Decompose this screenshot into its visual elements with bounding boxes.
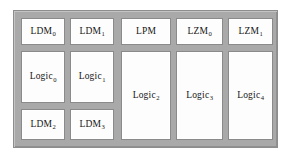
block-label: LDM0 [30, 27, 55, 37]
block-label: LDM1 [79, 27, 104, 37]
block-label: Logic2 [133, 91, 160, 101]
block-lzm-0: LZM0 [176, 18, 223, 45]
block-lzm-1: LZM1 [228, 18, 273, 45]
block-logic-1: Logic1 [70, 51, 114, 103]
block-logic-2: Logic2 [121, 51, 171, 140]
block-ldm-2: LDM2 [21, 109, 65, 140]
block-label: Logic1 [79, 72, 106, 82]
block-logic-0: Logic0 [21, 51, 65, 103]
block-label: LZM1 [238, 27, 262, 37]
block-label: Logic4 [237, 91, 264, 101]
chip-floorplan-diagram: LDM0 Logic0 LDM2 LDM1 Logic1 LDM3 LPM Lo… [0, 0, 288, 159]
block-logic-4: Logic4 [228, 51, 273, 140]
block-ldm-0: LDM0 [21, 18, 65, 45]
block-label: LZM0 [187, 27, 211, 37]
block-lpm: LPM [121, 18, 171, 45]
block-ldm-1: LDM1 [70, 18, 114, 45]
block-label: LDM2 [30, 120, 55, 130]
block-label: LPM [136, 27, 156, 37]
block-label: Logic0 [30, 72, 57, 82]
block-label: Logic3 [186, 91, 213, 101]
block-ldm-3: LDM3 [70, 109, 114, 140]
block-logic-3: Logic3 [176, 51, 223, 140]
block-label: LDM3 [79, 120, 104, 130]
